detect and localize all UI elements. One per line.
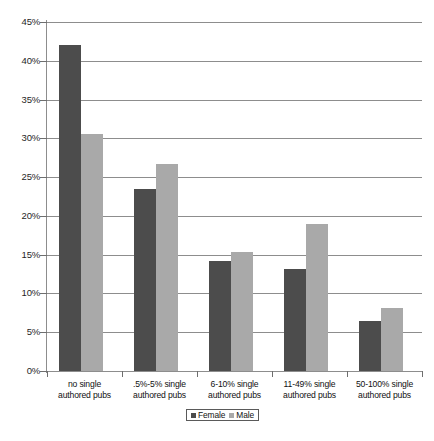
x-axis-category-label: 50-100% singleauthored pubs — [341, 379, 428, 401]
x-axis-category-label: 6-10% singleauthored pubs — [191, 379, 278, 401]
category-label-line1: 11-49% single — [284, 379, 336, 389]
y-axis-tick-label: 25% — [2, 172, 40, 182]
bar-chart: 45%40%35%30%25%20%15%10%5%0% no singleau… — [0, 0, 434, 441]
plot-area — [47, 22, 422, 371]
gridline — [47, 177, 422, 178]
category-label-line2: authored pubs — [116, 390, 203, 401]
bar-female-3 — [284, 269, 306, 371]
y-axis-tick-label: 30% — [2, 133, 40, 143]
bar-female-1 — [134, 189, 156, 371]
y-axis-tick-label: 40% — [2, 56, 40, 66]
x-axis-category-label: no singleauthored pubs — [41, 379, 128, 401]
bar-male-0 — [81, 134, 103, 371]
bar-female-2 — [209, 261, 231, 371]
category-label-line2: authored pubs — [341, 390, 428, 401]
x-axis-tick — [272, 371, 273, 377]
gridline — [47, 216, 422, 217]
y-axis-tick-label: 35% — [2, 95, 40, 105]
y-axis-tick-label: 10% — [2, 288, 40, 298]
y-axis-tick-label: 0% — [2, 366, 40, 376]
x-axis-category-label: 11-49% singleauthored pubs — [266, 379, 353, 401]
bar-male-3 — [306, 224, 328, 371]
legend-label-female: Female — [198, 411, 225, 420]
legend-item-female: Female — [191, 411, 225, 420]
y-axis-tick — [40, 255, 47, 256]
x-axis-category-labels: no singleauthored pubs.5%-5% singleautho… — [47, 379, 422, 409]
x-axis-tick — [347, 371, 348, 377]
bar-male-4 — [381, 308, 403, 371]
legend-label-male: Male — [236, 411, 254, 420]
y-axis-labels: 45%40%35%30%25%20%15%10%5%0% — [0, 0, 40, 441]
category-label-line2: authored pubs — [191, 390, 278, 401]
y-axis-tick — [40, 100, 47, 101]
y-axis-tick-label: 45% — [2, 17, 40, 27]
x-axis-tick — [122, 371, 123, 377]
y-axis-tick-label: 5% — [2, 327, 40, 337]
y-axis-tick — [40, 22, 47, 23]
y-axis-tick — [40, 138, 47, 139]
y-axis-tick-label: 20% — [2, 211, 40, 221]
chart-legend: Female Male — [186, 409, 259, 421]
category-label-line1: 6-10% single — [211, 379, 259, 389]
gridline — [47, 100, 422, 101]
bar-female-4 — [359, 321, 381, 371]
y-axis-tick — [40, 177, 47, 178]
x-axis-tick — [422, 371, 423, 377]
x-axis-tick — [47, 371, 48, 377]
gridline — [47, 138, 422, 139]
category-label-line1: .5%-5% single — [133, 379, 186, 389]
category-label-line1: 50-100% single — [356, 379, 413, 389]
gridline — [47, 61, 422, 62]
y-axis-tick — [40, 371, 47, 372]
y-axis-tick — [40, 216, 47, 217]
category-label-line1: no single — [68, 379, 101, 389]
gridline — [47, 371, 422, 372]
legend-swatch-male-icon — [229, 413, 234, 418]
y-axis-tick — [40, 332, 47, 333]
bar-male-2 — [231, 252, 253, 371]
category-label-line2: authored pubs — [266, 390, 353, 401]
y-axis-tick — [40, 293, 47, 294]
gridline — [47, 22, 422, 23]
y-axis-tick — [40, 61, 47, 62]
category-label-line2: authored pubs — [41, 390, 128, 401]
x-axis-tick — [197, 371, 198, 377]
bar-female-0 — [59, 45, 81, 371]
legend-swatch-female-icon — [191, 413, 196, 418]
legend-item-male: Male — [229, 411, 254, 420]
bar-male-1 — [156, 164, 178, 371]
x-axis-category-label: .5%-5% singleauthored pubs — [116, 379, 203, 401]
y-axis-tick-label: 15% — [2, 250, 40, 260]
